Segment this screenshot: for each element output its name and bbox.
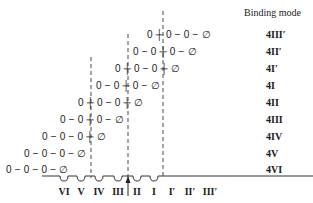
chain-row-4V: 0 − 0 − 0 − ∅ (24, 148, 86, 159)
chain-row-4III-prime: 0 ┼ 0 − 0 − ∅ (147, 29, 211, 40)
chain-row-4I: 0 − 0 ┼ 0 − ∅ (96, 80, 160, 91)
mode-label-4VI: 4VI (266, 164, 282, 175)
mode-label-4III-prime: 4III′ (266, 29, 286, 40)
site-label-II: II (133, 186, 141, 197)
site-label-I-prime: I′ (169, 186, 176, 197)
enzyme-baseline (42, 176, 313, 181)
site-label-VI: VI (58, 186, 69, 197)
mode-label-4I: 4I (266, 80, 275, 91)
chain-row-4VI: 0 − 0 − 0 − ∅ (6, 164, 68, 175)
chain-row-4III: 0 − 0 ┼ 0 − ∅ (60, 114, 124, 125)
site-label-I: I (152, 186, 156, 197)
chain-row-4II: 0 ┼ 0 − 0 ┼ ∅ (78, 97, 143, 108)
site-label-V: V (77, 186, 84, 197)
mode-label-4I-prime: 4I′ (266, 63, 278, 74)
chain-row-4I-prime: 0 ┼ 0 − 0 ┼ ∅ (115, 63, 180, 74)
binding-mode-header: Binding mode (244, 7, 301, 18)
binding-mode-diagram: Binding mode 0 ┼ 0 − 0 − ∅ 0 − 0 ┼ 0 − ∅… (0, 0, 313, 203)
mode-label-4III: 4III (266, 114, 283, 125)
chain-row-4IV: 0 − 0 − 0 ┼ ∅ (42, 131, 106, 142)
mode-label-4IV: 4IV (266, 131, 282, 142)
chain-row-4II-prime: 0 − 0 ┼ 0 − ∅ (133, 46, 197, 57)
mode-label-4II: 4II (266, 97, 279, 108)
site-label-III-prime: III′ (203, 186, 218, 197)
site-label-IV: IV (93, 186, 104, 197)
site-label-III: III (112, 186, 124, 197)
arrow-head-icon (126, 176, 131, 183)
site-label-II-prime: II′ (185, 186, 196, 197)
mode-label-4II-prime: 4II′ (266, 46, 282, 57)
mode-label-4V: 4V (266, 148, 278, 159)
